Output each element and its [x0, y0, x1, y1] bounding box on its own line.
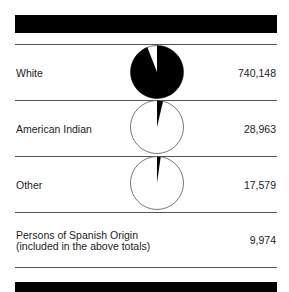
- row-value-white: 740,148: [238, 67, 276, 79]
- divider: [15, 267, 277, 268]
- pie-white: [130, 45, 184, 99]
- row-value-other: 17,579: [244, 179, 276, 191]
- pie-other: [130, 156, 184, 210]
- row-label-white: White: [16, 67, 43, 79]
- header-bar: [15, 15, 277, 33]
- row-value-american-indian: 28,963: [244, 123, 276, 135]
- divider: [15, 212, 277, 213]
- row-label-american-indian: American Indian: [16, 123, 92, 135]
- spanish-origin-label-line2: (included in the above totals): [16, 240, 150, 252]
- row-label-other: Other: [16, 179, 42, 191]
- pie-american-indian: [130, 100, 184, 154]
- footer-bar: [15, 282, 277, 292]
- spanish-origin-value: 9,974: [250, 234, 276, 246]
